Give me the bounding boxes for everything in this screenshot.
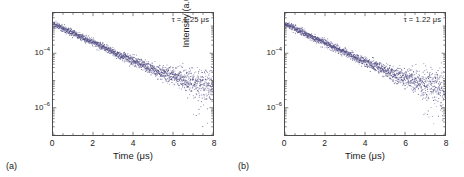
x-tick-label: 2 [322, 138, 327, 149]
x-tick-label: 8 [444, 138, 449, 149]
x-axis-label: Time (μs) [284, 150, 446, 162]
panel-tag-b: (b) [238, 160, 249, 172]
panel-a: Intensity (a.u.) 10−4 10−6 τ = 1.25 μs 0… [0, 0, 232, 177]
x-tick-label: 0 [282, 138, 287, 149]
x-tick-label: 4 [363, 138, 368, 149]
x-tick-labels-b: 02468 [284, 138, 446, 149]
y-tick-labels-a: 10−4 10−6 [22, 12, 50, 136]
y-tick-label: 10−4 [256, 49, 282, 57]
x-tick-label: 6 [403, 138, 408, 149]
x-tick-label: 8 [212, 138, 217, 149]
lifetime-annotation-b: τ = 1.22 μs [404, 16, 441, 24]
x-tick-labels-a: 02468 [52, 138, 214, 149]
x-tick-label: 2 [90, 138, 95, 149]
figure-two-panel-pl-decay: Intensity (a.u.) 10−4 10−6 τ = 1.25 μs 0… [0, 0, 464, 177]
y-tick-label: 10−6 [256, 104, 282, 112]
y-tick-label: 10−6 [24, 104, 50, 112]
plot-area-b: τ = 1.22 μs [284, 12, 446, 136]
y-tick-labels-b: 10−4 10−6 [254, 12, 282, 136]
y-axis-label: Intensity (a.u.) [179, 0, 193, 81]
panel-tag-a: (a) [6, 160, 17, 172]
panel-b: Intensity (a.u.) 10−4 10−6 τ = 1.22 μs 0… [232, 0, 464, 177]
scatter-plot-b [285, 13, 445, 135]
x-tick-label: 6 [171, 138, 176, 149]
x-axis-label: Time (μs) [52, 150, 214, 162]
x-tick-label: 0 [50, 138, 55, 149]
x-tick-label: 4 [131, 138, 136, 149]
y-tick-label: 10−4 [24, 49, 50, 57]
